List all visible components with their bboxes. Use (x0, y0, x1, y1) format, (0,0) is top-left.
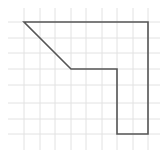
grid-figure (0, 0, 166, 153)
